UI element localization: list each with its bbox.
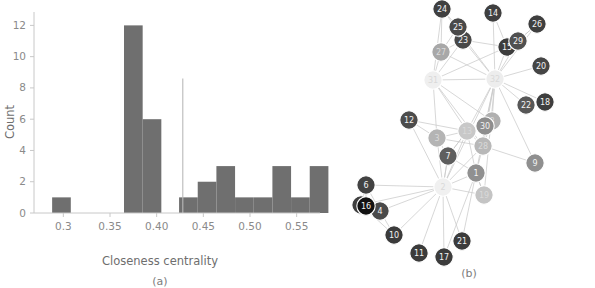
x-tick-label: 0.45	[192, 220, 215, 232]
network-node[interactable]: 16	[357, 197, 375, 215]
network-node[interactable]: 6	[357, 176, 375, 194]
x-tick-label: 0.35	[98, 220, 121, 232]
network-node[interactable]: 32	[486, 70, 504, 88]
histogram-bar	[179, 197, 198, 213]
network-node[interactable]: 28	[474, 137, 492, 155]
histogram-bar	[235, 197, 254, 213]
y-tick-label: 4	[19, 144, 26, 156]
network-node-circle[interactable]	[517, 96, 535, 114]
histogram-bar	[254, 197, 273, 213]
network-node[interactable]: 17	[435, 248, 453, 266]
network-node-circle[interactable]	[424, 71, 442, 89]
network-edge	[493, 13, 495, 79]
network-node-circle[interactable]	[400, 111, 418, 129]
network-node-circle[interactable]	[439, 147, 457, 165]
histogram-bars	[52, 25, 328, 213]
network-node[interactable]: 9	[526, 154, 544, 172]
network-node[interactable]: 29	[509, 32, 527, 50]
network-edge	[394, 187, 443, 235]
network-node-circle[interactable]	[357, 197, 375, 215]
network-edge	[462, 173, 476, 241]
network-node-circle[interactable]	[532, 57, 550, 75]
histogram-bar	[272, 166, 291, 213]
panel-a-histogram: 0.30.350.400.450.500.55 024681012 Closen…	[0, 0, 330, 288]
y-tick-label: 12	[13, 19, 26, 31]
network-node-circle[interactable]	[528, 15, 546, 33]
x-tick-label: 0.55	[285, 220, 308, 232]
histogram-bar	[198, 182, 217, 213]
network-node-circle[interactable]	[526, 154, 544, 172]
panel-b-network: 1234567891011121314151617181920212223242…	[330, 0, 595, 288]
histogram-y-axis-title: Count	[3, 104, 17, 139]
histogram-svg: 0.30.350.400.450.500.55 024681012 Closen…	[0, 0, 330, 288]
histogram-bar	[143, 119, 162, 213]
network-node-circle[interactable]	[428, 129, 446, 147]
y-tick-label: 10	[13, 50, 26, 62]
histogram-x-axis-title: Closeness centrality	[102, 254, 218, 268]
panel-b-caption: (b)	[461, 267, 477, 280]
network-node[interactable]: 26	[528, 15, 546, 33]
network-node-circle[interactable]	[432, 43, 450, 61]
network-node-circle[interactable]	[474, 137, 492, 155]
figure-root: 0.30.350.400.450.500.55 024681012 Closen…	[0, 0, 595, 288]
network-edge	[366, 185, 443, 187]
network-node[interactable]: 2	[434, 178, 452, 196]
network-edge	[419, 187, 443, 253]
network-node[interactable]: 30	[476, 117, 494, 135]
network-node-circle[interactable]	[458, 122, 476, 140]
network-node[interactable]: 7	[439, 147, 457, 165]
network-edge	[443, 187, 444, 257]
network-node[interactable]: 25	[449, 18, 467, 36]
network-node-circle[interactable]	[484, 4, 502, 22]
network-node[interactable]: 12	[400, 111, 418, 129]
histogram-bar	[124, 25, 143, 213]
network-node[interactable]: 21	[453, 232, 471, 250]
network-node-circle[interactable]	[536, 93, 554, 111]
x-tick-label: 0.50	[238, 220, 261, 232]
network-node[interactable]: 22	[517, 96, 535, 114]
network-node-circle[interactable]	[434, 178, 452, 196]
panel-a-caption: (a)	[152, 275, 167, 288]
y-tick-label: 2	[19, 175, 26, 187]
network-nodes: 1234567891011121314151617181920212223242…	[352, 0, 554, 266]
histogram-bar	[52, 197, 71, 213]
network-svg: 1234567891011121314151617181920212223242…	[330, 0, 595, 288]
network-node-circle[interactable]	[357, 176, 375, 194]
histogram-bar	[310, 166, 329, 213]
network-node[interactable]: 1	[467, 164, 485, 182]
network-node-circle[interactable]	[433, 0, 451, 18]
network-node[interactable]: 10	[385, 226, 403, 244]
network-node[interactable]: 13	[458, 122, 476, 140]
network-node-circle[interactable]	[476, 117, 494, 135]
x-tick-label: 0.40	[145, 220, 168, 232]
y-tick-label: 8	[19, 81, 26, 93]
network-node-circle[interactable]	[475, 186, 493, 204]
network-node-circle[interactable]	[410, 244, 428, 262]
network-node[interactable]: 14	[484, 4, 502, 22]
network-node-circle[interactable]	[449, 18, 467, 36]
network-node[interactable]: 24	[433, 0, 451, 18]
network-node-circle[interactable]	[467, 164, 485, 182]
y-tick-label: 6	[19, 113, 26, 125]
network-node[interactable]: 18	[536, 93, 554, 111]
network-node[interactable]: 3	[428, 129, 446, 147]
histogram-bar	[216, 166, 235, 213]
network-node[interactable]: 31	[424, 71, 442, 89]
network-node[interactable]: 27	[432, 43, 450, 61]
network-node-circle[interactable]	[486, 70, 504, 88]
x-tick-label: 0.3	[55, 220, 72, 232]
histogram-bar	[291, 197, 310, 213]
y-tick-label: 0	[19, 207, 26, 219]
network-node[interactable]: 11	[410, 244, 428, 262]
histogram-x-tick-labels: 0.30.350.400.450.500.55	[55, 220, 308, 232]
network-node[interactable]: 19	[475, 186, 493, 204]
network-node-circle[interactable]	[453, 232, 471, 250]
network-node[interactable]: 20	[532, 57, 550, 75]
network-node-circle[interactable]	[385, 226, 403, 244]
network-node-circle[interactable]	[435, 248, 453, 266]
network-node-circle[interactable]	[509, 32, 527, 50]
